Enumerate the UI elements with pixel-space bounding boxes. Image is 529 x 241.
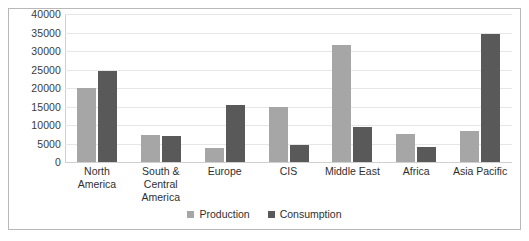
chart-container: 4000035000300002500020000150001000050000… xyxy=(8,8,521,230)
x-axis-labels: North AmericaSouth & Central AmericaEuro… xyxy=(65,165,512,204)
x-axis-label: Europe xyxy=(193,165,257,204)
bar-consumption[interactable] xyxy=(162,136,181,162)
y-axis-tick-label: 0 xyxy=(55,157,61,168)
bar-consumption[interactable] xyxy=(226,105,245,162)
y-axis-tick-label: 5000 xyxy=(37,138,61,149)
legend-item-production[interactable]: Production xyxy=(187,209,249,220)
bar-group xyxy=(257,14,321,162)
y-axis-tick-label: 15000 xyxy=(31,101,61,112)
bar-group xyxy=(65,14,129,162)
bar-production[interactable] xyxy=(396,134,415,162)
legend-item-consumption[interactable]: Consumption xyxy=(268,209,342,220)
bar-consumption[interactable] xyxy=(417,147,436,162)
bar-production[interactable] xyxy=(332,45,351,162)
legend-label: Production xyxy=(199,209,249,220)
y-axis-tick-label: 30000 xyxy=(31,46,61,57)
x-axis-label: CIS xyxy=(257,165,321,204)
bar-group xyxy=(193,14,257,162)
chart-legend: ProductionConsumption xyxy=(9,209,520,220)
bar-consumption[interactable] xyxy=(353,127,372,162)
y-axis-tick-label: 40000 xyxy=(31,9,61,20)
x-axis-label: North America xyxy=(65,165,129,204)
bar-group xyxy=(448,14,512,162)
x-axis-label: Asia Pacific xyxy=(448,165,512,204)
y-axis-tick-label: 10000 xyxy=(31,120,61,131)
x-axis-baseline xyxy=(65,162,512,163)
plot-area xyxy=(65,14,512,162)
bar-group xyxy=(384,14,448,162)
plot-wrapper: 4000035000300002500020000150001000050000… xyxy=(9,9,520,229)
legend-label: Consumption xyxy=(280,209,342,220)
x-axis-label: South & Central America xyxy=(129,165,193,204)
bar-production[interactable] xyxy=(269,107,288,163)
legend-swatch-icon xyxy=(268,211,275,218)
legend-swatch-icon xyxy=(187,211,194,218)
y-axis: 4000035000300002500020000150001000050000 xyxy=(9,14,65,162)
y-axis-tick-label: 20000 xyxy=(31,83,61,94)
bar-production[interactable] xyxy=(460,131,479,162)
bar-group xyxy=(320,14,384,162)
bar-consumption[interactable] xyxy=(290,145,309,162)
bar-group xyxy=(129,14,193,162)
bar-consumption[interactable] xyxy=(481,34,500,162)
bar-consumption[interactable] xyxy=(98,71,117,162)
bar-production[interactable] xyxy=(141,135,160,162)
bar-production[interactable] xyxy=(205,148,224,162)
bars-layer xyxy=(65,14,512,162)
y-axis-tick-label: 25000 xyxy=(31,64,61,75)
x-axis-label: Africa xyxy=(384,165,448,204)
x-axis-label: Middle East xyxy=(320,165,384,204)
y-axis-tick-label: 35000 xyxy=(31,27,61,38)
bar-production[interactable] xyxy=(77,88,96,162)
